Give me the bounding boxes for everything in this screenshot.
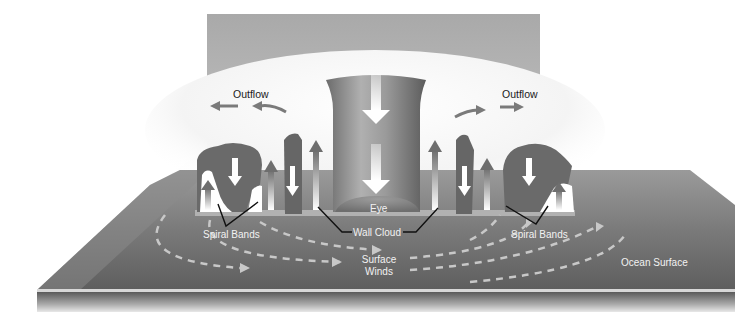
surface-winds-label-line1: Surface [354, 254, 404, 266]
spiral-bands-label-left: Spiral Bands [203, 229, 260, 241]
eye-label: Eye [370, 203, 387, 215]
outflow-label-left: Outflow [233, 88, 269, 100]
ocean-surface-label: Ocean Surface [621, 257, 688, 269]
surface-winds-label-line2: Winds [354, 266, 404, 278]
surface-winds-label: Surface Winds [354, 254, 404, 278]
outflow-label-right: Outflow [502, 88, 538, 100]
hurricane-diagram: Outflow Outflow Eye Wall Cloud Spiral Ba… [0, 0, 735, 322]
spiral-bands-label-right: Spiral Bands [511, 229, 568, 241]
wall-cloud-label: Wall Cloud [353, 227, 401, 239]
